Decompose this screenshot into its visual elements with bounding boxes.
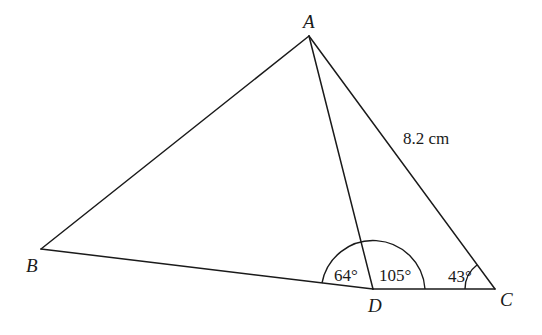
angle-label-c: 43° [448, 267, 472, 286]
side-bd [41, 249, 373, 289]
vertex-label-b: B [26, 255, 38, 276]
angle-label-adc: 105° [379, 266, 411, 285]
side-ab [41, 36, 309, 249]
vertex-label-d: D [367, 295, 382, 316]
side-label-ac: 8.2 cm [403, 129, 449, 148]
diagram-canvas: A B C D 64° 105° 43° 8.2 cm [0, 0, 542, 335]
vertex-label-c: C [500, 289, 513, 310]
angle-label-bda: 64° [334, 266, 358, 285]
side-ac [309, 36, 495, 289]
vertex-label-a: A [301, 11, 315, 32]
triangle-figure: A B C D 64° 105° 43° 8.2 cm [0, 0, 542, 335]
